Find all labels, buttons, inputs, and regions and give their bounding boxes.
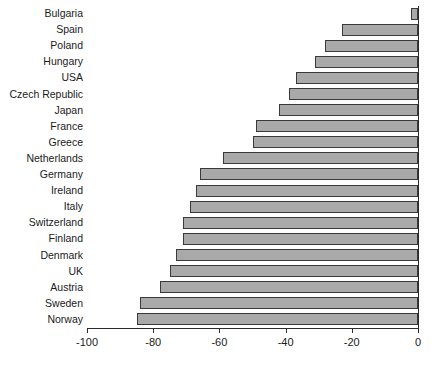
bar-row — [87, 6, 418, 22]
category-axis-labels: BulgariaSpainPolandHungaryUSACzech Repub… — [0, 6, 83, 328]
category-label-usa: USA — [0, 70, 83, 86]
category-label-czech-republic: Czech Republic — [0, 87, 83, 103]
bar — [315, 56, 418, 68]
bar-row — [87, 70, 418, 86]
bar-row — [87, 22, 418, 38]
category-label-poland: Poland — [0, 38, 83, 54]
bar-row — [87, 312, 418, 328]
plot-area — [87, 6, 418, 328]
x-tick-label: -80 — [145, 336, 161, 348]
bar — [325, 40, 418, 52]
x-tick — [87, 328, 88, 333]
bar-row — [87, 247, 418, 263]
category-label-bulgaria: Bulgaria — [0, 6, 83, 22]
x-tick-label: -100 — [76, 336, 98, 348]
category-label-denmark: Denmark — [0, 248, 83, 264]
x-tick — [352, 328, 353, 333]
category-label-uk: UK — [0, 264, 83, 280]
bar — [196, 185, 418, 197]
bar — [342, 24, 418, 36]
x-tick — [286, 328, 287, 333]
bar — [160, 281, 418, 293]
category-label-spain: Spain — [0, 22, 83, 38]
bar — [296, 72, 418, 84]
bar — [140, 297, 418, 309]
bar-row — [87, 167, 418, 183]
bar — [200, 168, 418, 180]
bar — [279, 104, 418, 116]
category-label-france: France — [0, 119, 83, 135]
category-label-italy: Italy — [0, 199, 83, 215]
x-tick-label: -40 — [278, 336, 294, 348]
bar-row — [87, 86, 418, 102]
category-label-ireland: Ireland — [0, 183, 83, 199]
bar — [190, 201, 418, 213]
category-label-sweden: Sweden — [0, 296, 83, 312]
bar-row — [87, 151, 418, 167]
x-tick-label: 0 — [415, 336, 421, 348]
bar-row — [87, 215, 418, 231]
bar — [256, 120, 418, 132]
category-label-finland: Finland — [0, 231, 83, 247]
category-label-austria: Austria — [0, 280, 83, 296]
bar-row — [87, 231, 418, 247]
bar — [223, 152, 418, 164]
bar — [183, 233, 418, 245]
category-label-japan: Japan — [0, 103, 83, 119]
bar-row — [87, 280, 418, 296]
bar-row — [87, 119, 418, 135]
bar-chart: BulgariaSpainPolandHungaryUSACzech Repub… — [0, 0, 436, 367]
category-label-netherlands: Netherlands — [0, 151, 83, 167]
bar — [137, 313, 418, 325]
category-label-hungary: Hungary — [0, 54, 83, 70]
x-tick-label: -60 — [211, 336, 227, 348]
category-label-norway: Norway — [0, 312, 83, 328]
bar — [289, 88, 418, 100]
x-tick — [418, 328, 419, 333]
bar-row — [87, 199, 418, 215]
bar-row — [87, 135, 418, 151]
bar — [183, 217, 418, 229]
y-axis-line — [418, 6, 419, 328]
category-label-greece: Greece — [0, 135, 83, 151]
x-axis-line — [87, 328, 419, 329]
x-tick — [219, 328, 220, 333]
bar-row — [87, 264, 418, 280]
bar-row — [87, 296, 418, 312]
category-label-germany: Germany — [0, 167, 83, 183]
bar — [176, 249, 418, 261]
bar-row — [87, 54, 418, 70]
bar — [253, 136, 419, 148]
x-tick-label: -20 — [344, 336, 360, 348]
bar — [170, 265, 418, 277]
bar-row — [87, 38, 418, 54]
bar-row — [87, 103, 418, 119]
x-tick — [153, 328, 154, 333]
category-label-switzerland: Switzerland — [0, 215, 83, 231]
bar — [411, 8, 418, 20]
bar-row — [87, 183, 418, 199]
